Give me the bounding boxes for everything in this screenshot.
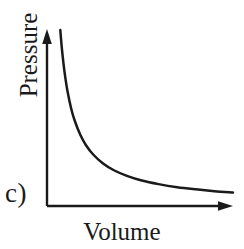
y-axis-title-container: Pressure	[12, 0, 46, 120]
x-axis-title: Volume	[0, 219, 244, 244]
figure-panel: c) Volume Pressure	[0, 0, 244, 249]
x-axis-arrowhead-icon	[218, 201, 233, 211]
panel-label: c)	[5, 180, 27, 207]
y-axis-title: Pressure	[12, 0, 46, 120]
pressure-volume-curve	[60, 30, 233, 193]
